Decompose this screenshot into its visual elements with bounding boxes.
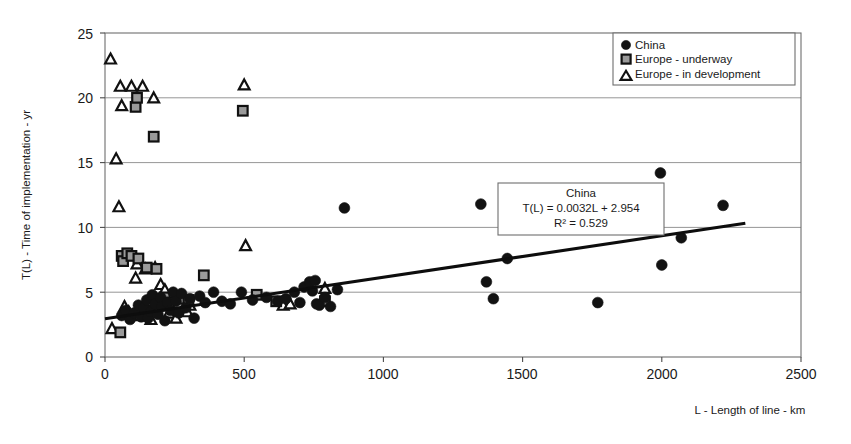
y-tick-label: 0 <box>85 349 93 365</box>
equation-annotation: China T(L) = 0.0032L + 2.954 R² = 0.529 <box>498 183 664 235</box>
data-point-circle <box>655 168 666 179</box>
gridlines <box>105 98 801 292</box>
y-tick-label: 10 <box>77 220 93 236</box>
legend-marker-square-icon <box>622 55 631 64</box>
data-point-triangle <box>126 81 137 91</box>
data-point-circle <box>159 315 170 326</box>
data-point-circle <box>488 293 499 304</box>
equation-title: China <box>566 187 597 199</box>
data-point-square <box>152 264 162 274</box>
data-point-circle <box>310 275 321 286</box>
data-point-circle <box>208 287 219 298</box>
x-tick-label: 2500 <box>785 366 816 382</box>
equation-r-squared: R² = 0.529 <box>554 217 608 229</box>
data-point-square <box>149 132 159 142</box>
x-tick-labels: 0 500 1000 1500 2000 2500 <box>101 366 817 382</box>
x-tick-label: 500 <box>232 366 256 382</box>
y-tick-label: 25 <box>77 26 93 42</box>
data-point-triangle <box>148 92 159 102</box>
plot-canvas: 0 500 1000 1500 2000 2500 0 5 10 15 20 2… <box>0 0 851 444</box>
data-point-square <box>116 328 126 338</box>
data-point-circle <box>592 297 603 308</box>
y-tick-marks <box>100 33 105 357</box>
data-point-square <box>199 271 209 281</box>
data-point-circle <box>481 276 492 287</box>
scatter-chart: 0 500 1000 1500 2000 2500 0 5 10 15 20 2… <box>0 0 851 444</box>
equation-formula: T(L) = 0.0032L + 2.954 <box>522 202 640 214</box>
data-point-circle <box>656 260 667 271</box>
data-point-circle <box>718 200 729 211</box>
data-point-circle <box>339 203 350 214</box>
data-point-circle <box>294 297 305 308</box>
y-tick-labels: 0 5 10 15 20 25 <box>77 26 93 365</box>
data-point-square <box>132 93 142 103</box>
legend: China Europe - underway Europe - in deve… <box>613 33 795 85</box>
data-point-circle <box>189 313 200 324</box>
legend-label-europe-underway: Europe - underway <box>635 53 732 65</box>
legend-label-china: China <box>635 39 666 51</box>
data-point-triangle <box>240 240 251 250</box>
data-point-circle <box>185 293 196 304</box>
data-point-triangle <box>115 81 126 91</box>
y-axis-title: T(L) - Time of implementation - yr <box>20 110 32 280</box>
x-tick-label: 1500 <box>506 366 537 382</box>
data-point-circle <box>236 287 247 298</box>
data-point-square <box>142 263 152 273</box>
legend-label-europe-development: Europe - in development <box>635 68 761 80</box>
x-axis-title: L - Length of line - km <box>695 404 806 416</box>
data-point-circle <box>325 301 336 312</box>
x-tick-marks <box>105 357 801 362</box>
x-tick-label: 2000 <box>646 366 677 382</box>
data-point-triangle <box>105 54 116 64</box>
y-tick-label: 15 <box>77 155 93 171</box>
y-tick-label: 5 <box>85 285 93 301</box>
data-point-triangle <box>239 79 250 89</box>
y-tick-label: 20 <box>77 90 93 106</box>
legend-marker-circle-icon <box>621 40 630 49</box>
data-point-triangle <box>114 201 125 211</box>
data-point-triangle <box>116 100 127 110</box>
data-point-circle <box>475 199 486 210</box>
x-tick-label: 0 <box>101 366 109 382</box>
x-tick-label: 1000 <box>367 366 398 382</box>
data-point-square <box>238 106 248 116</box>
data-point-triangle <box>111 153 122 163</box>
data-point-triangle <box>137 81 148 91</box>
